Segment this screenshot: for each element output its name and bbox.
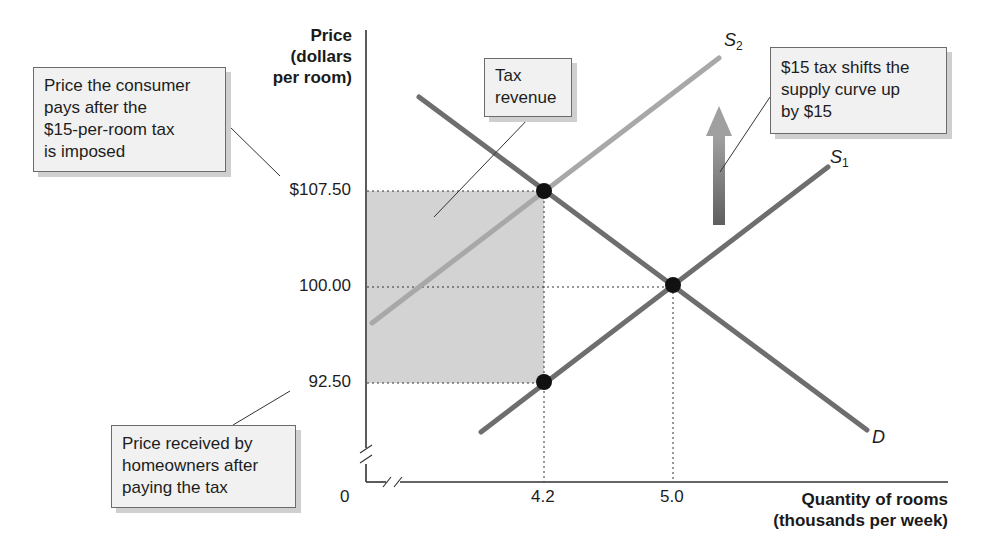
y-tick-high: $107.50: [290, 180, 351, 200]
callout-line: $15-per-room tax: [44, 119, 215, 141]
callout-line: Price received by: [122, 433, 285, 455]
x-tick-5-0: 5.0: [660, 487, 684, 507]
supply-shift-callout: $15 tax shifts the supply curve up by $1…: [770, 47, 947, 134]
x-title-line: Quantity of rooms: [740, 489, 948, 510]
callout-line: Tax: [495, 65, 561, 87]
shift-up-arrow-icon: [706, 106, 732, 225]
s1-letter: S: [830, 147, 842, 167]
callout-line: revenue: [495, 87, 561, 109]
s1-label: S1: [830, 147, 849, 170]
callout-line: supply curve up: [781, 79, 936, 101]
y-title-line: (dollars: [250, 46, 352, 67]
callout-line: paying the tax: [122, 477, 285, 499]
callout-line: by $15: [781, 101, 936, 123]
y-title-line: per room): [250, 67, 352, 88]
s2-subscript: 2: [736, 39, 743, 53]
consumer-price-callout: Price the consumer pays after the $15-pe…: [33, 67, 226, 172]
x-tick-4-2: 4.2: [531, 487, 555, 507]
s1-subscript: 1: [842, 156, 849, 170]
callout-line: Price the consumer: [44, 75, 215, 97]
s2-label: S2: [724, 30, 743, 53]
equilibrium-point-producer: [536, 374, 552, 390]
s2-letter: S: [724, 30, 736, 50]
demand-label: D: [872, 427, 885, 448]
x-title-line: (thousands per week): [740, 510, 948, 531]
homeowner-price-callout: Price received by homeowners after payin…: [111, 425, 296, 508]
callout-line: homeowners after: [122, 455, 285, 477]
y-axis-title: Price (dollars per room): [250, 25, 352, 88]
callout-line: is imposed: [44, 141, 215, 163]
x-axis-title: Quantity of rooms (thousands per week): [740, 489, 948, 531]
y-tick-low: 92.50: [308, 372, 351, 392]
callout-line: pays after the: [44, 97, 215, 119]
tax-revenue-callout: Tax revenue: [484, 58, 572, 117]
equilibrium-point-original: [665, 277, 681, 293]
callout-line: $15 tax shifts the: [781, 57, 936, 79]
origin-label: 0: [340, 487, 349, 507]
y-tick-mid: 100.00: [299, 276, 351, 296]
y-title-line: Price: [250, 25, 352, 46]
equilibrium-point-consumer: [536, 183, 552, 199]
